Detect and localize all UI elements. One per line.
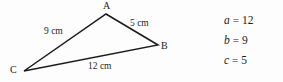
equation-operator-b: =: [230, 34, 242, 46]
equation-row-a: a = 12: [224, 10, 280, 30]
side-label-cb: 12 cm: [88, 62, 111, 72]
side-label-ab: 5 cm: [130, 19, 149, 29]
equation-value-b: 9: [242, 34, 248, 46]
vertex-label-a: A: [103, 1, 110, 11]
equation-value-c: 5: [241, 54, 247, 66]
geometry-figure: A B C 9 cm 5 cm 12 cm a = 12 b = 9 c = 5: [0, 0, 283, 82]
vertex-label-c: C: [10, 65, 17, 75]
vertex-label-b: B: [161, 41, 168, 51]
equation-operator-c: =: [229, 54, 241, 66]
side-label-ca: 9 cm: [44, 27, 63, 37]
equation-operator-a: =: [230, 14, 242, 26]
equation-list: a = 12 b = 9 c = 5: [224, 10, 280, 70]
equation-row-b: b = 9: [224, 30, 280, 50]
equation-value-a: 12: [242, 14, 254, 26]
equation-row-c: c = 5: [224, 50, 280, 70]
